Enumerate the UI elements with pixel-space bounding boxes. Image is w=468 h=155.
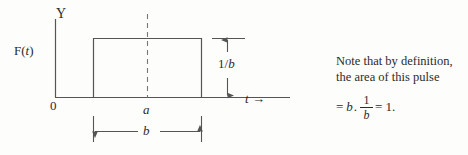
pulse-function-figure: Y F(t) 0 a t → 1/b b Note that by defini…: [0, 0, 468, 155]
note-line-2: the area of this pulse: [336, 69, 464, 85]
x-axis-label: t →: [245, 92, 265, 105]
fraction-denominator: b: [364, 108, 370, 121]
pulse-height-label: 1/b: [218, 57, 235, 70]
definition-note: Note that by definition, the area of thi…: [336, 53, 464, 121]
equation-equals-1: =: [336, 99, 343, 116]
y-axis-label: Y: [56, 7, 66, 21]
center-point-label: a: [143, 103, 150, 116]
pulse-width-label: b: [143, 124, 150, 137]
origin-label: 0: [50, 99, 57, 112]
fraction-numerator: 1: [364, 94, 370, 107]
function-label: F(t): [14, 44, 34, 57]
area-equation: = b . 1 b = 1.: [336, 94, 464, 121]
equation-dot: .: [354, 99, 357, 116]
equation-equals-2: =: [375, 99, 382, 116]
equation-result: 1.: [385, 99, 395, 116]
equation-factor: b: [346, 99, 353, 116]
note-line-1: Note that by definition,: [336, 53, 464, 69]
equation-fraction: 1 b: [360, 94, 373, 121]
